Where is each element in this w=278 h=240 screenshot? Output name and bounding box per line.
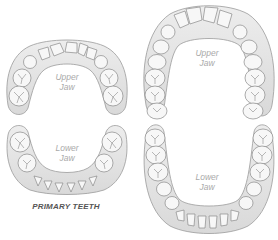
label-line: Jaw: [42, 153, 92, 163]
primary-teeth-caption: PRIMARY TEETH: [20, 202, 112, 211]
label-line: Jaw: [182, 182, 232, 192]
label-line: Upper: [182, 48, 232, 58]
primary-lower-jaw-label: Lower Jaw: [42, 143, 92, 163]
label-line: Jaw: [42, 82, 92, 92]
permanent-lower-jaw-label: Lower Jaw: [182, 172, 232, 192]
permanent-upper-jaw-label: Upper Jaw: [182, 48, 232, 68]
label-line: Lower: [182, 172, 232, 182]
label-line: Lower: [42, 143, 92, 153]
label-line: Jaw: [182, 58, 232, 68]
label-line: Upper: [42, 72, 92, 82]
primary-upper-jaw-label: Upper Jaw: [42, 72, 92, 92]
